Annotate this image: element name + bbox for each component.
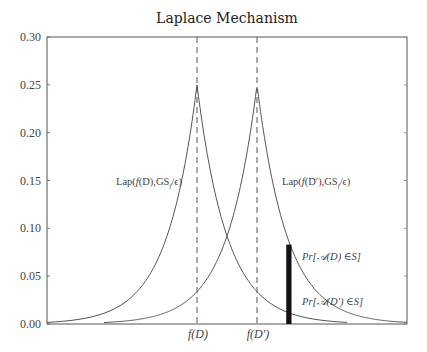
prob-label-D: Pr[𝒜(D) ∈S] — [301, 251, 361, 263]
ytick-label: 0.15 — [20, 174, 41, 188]
lap-label-Dprime: Lap(f(D′),GSf/ϵ) — [282, 176, 351, 190]
laplace-curve-2 — [104, 89, 407, 323]
probability-bar-rect — [286, 245, 291, 324]
ytick-label: 0.20 — [20, 126, 41, 140]
ytick-label: 0.30 — [20, 30, 41, 44]
xtick-fD: f(D) — [188, 327, 208, 341]
plot-frame — [47, 37, 407, 324]
density-curves — [47, 85, 407, 323]
probability-bar — [286, 245, 291, 324]
plot-area: 0.000.050.100.150.200.250.30 Lap(f(D),GS… — [0, 0, 427, 352]
xtick-fDprime: f(D′) — [247, 327, 270, 341]
prob-label-Dprime: Pr[𝒜(D′) ∈S] — [301, 296, 363, 308]
ytick-label: 0.10 — [20, 221, 41, 235]
lap-label-D: Lap(f(D),GSf/ϵ) — [116, 176, 182, 190]
ytick-label: 0.00 — [20, 317, 41, 331]
ytick-label: 0.25 — [20, 78, 41, 92]
ytick-label: 0.05 — [20, 269, 41, 283]
